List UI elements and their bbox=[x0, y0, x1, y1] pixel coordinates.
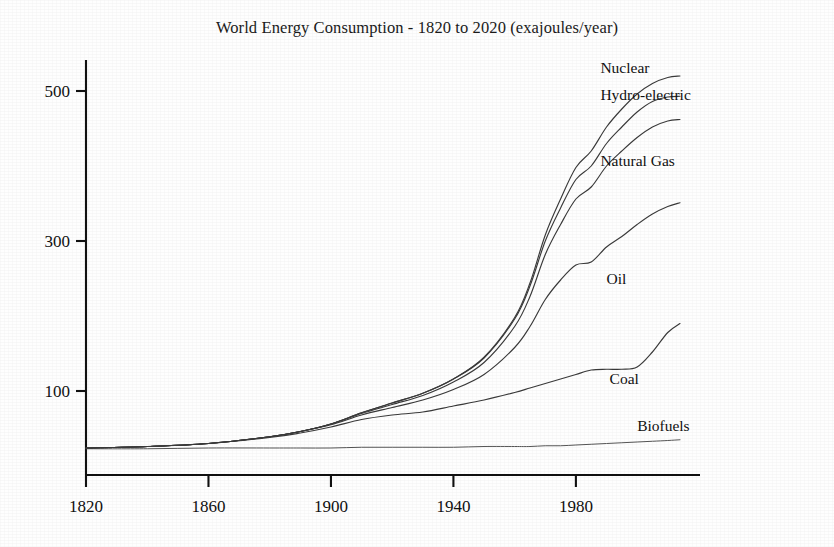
series-curve-oil bbox=[86, 203, 680, 448]
series-curves bbox=[86, 76, 680, 449]
series-labels: BiofuelsCoalOilNatural GasHydro-electric… bbox=[600, 59, 690, 434]
figure-container: World Energy Consumption - 1820 to 2020 … bbox=[0, 0, 834, 547]
series-label-oil: Oil bbox=[607, 270, 627, 287]
series-label-natural-gas: Natural Gas bbox=[600, 152, 674, 169]
series-curve-biofuels bbox=[86, 440, 680, 449]
x-tick-label: 1900 bbox=[314, 497, 348, 516]
x-tick-label: 1980 bbox=[559, 497, 593, 516]
series-label-hydro-electric: Hydro-electric bbox=[600, 86, 690, 103]
y-tick-label: 500 bbox=[45, 82, 71, 101]
line-chart-plot: 100300500 18201860190019401980 BiofuelsC… bbox=[0, 0, 834, 547]
x-tick-marks bbox=[86, 475, 576, 487]
series-curve-hydro-electric bbox=[86, 96, 680, 448]
x-tick-labels: 18201860190019401980 bbox=[69, 497, 593, 516]
y-tick-marks bbox=[76, 91, 86, 391]
series-label-nuclear: Nuclear bbox=[600, 59, 650, 76]
series-label-biofuels: Biofuels bbox=[637, 417, 690, 434]
x-tick-label: 1940 bbox=[436, 497, 470, 516]
x-tick-label: 1860 bbox=[191, 497, 225, 516]
x-tick-label: 1820 bbox=[69, 497, 103, 516]
y-tick-label: 300 bbox=[45, 232, 71, 251]
y-tick-label: 100 bbox=[45, 382, 71, 401]
series-curve-natural-gas bbox=[86, 120, 680, 449]
y-tick-labels: 100300500 bbox=[45, 82, 71, 401]
series-label-coal: Coal bbox=[610, 370, 639, 387]
series-curve-coal bbox=[86, 324, 680, 449]
